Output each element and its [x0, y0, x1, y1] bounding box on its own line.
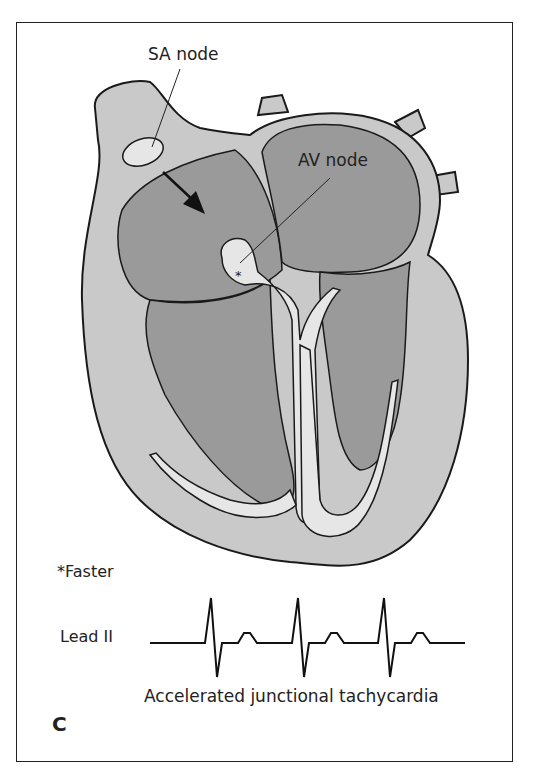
footnote-faster: *Faster	[57, 562, 114, 581]
ecg-trace	[150, 598, 465, 677]
ecg-lead-label: Lead II	[60, 627, 113, 646]
panel-letter: C	[52, 712, 67, 736]
sa-node-label: SA node	[148, 44, 219, 64]
av-node-label: AV node	[298, 150, 368, 170]
av-node-asterisk: *	[235, 268, 242, 283]
ecg-caption: Accelerated junctional tachycardia	[144, 686, 439, 706]
heart-diagram	[0, 0, 535, 773]
left-atrium	[262, 124, 420, 272]
